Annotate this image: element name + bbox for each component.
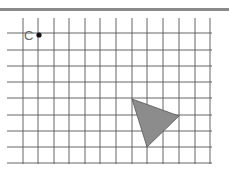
triangle-shape xyxy=(132,99,179,147)
point-c-label: C xyxy=(24,28,33,43)
grid-diagram: C xyxy=(0,0,229,177)
grid-lines xyxy=(7,18,212,164)
point-c-dot xyxy=(36,32,41,37)
